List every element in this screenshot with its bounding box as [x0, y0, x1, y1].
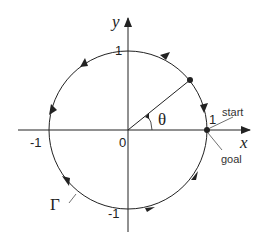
y-tick-neg: -1 — [108, 206, 120, 221]
origin-label: 0 — [119, 135, 126, 150]
point-on-circle — [187, 77, 193, 83]
y-tick-pos: 1 — [115, 43, 122, 58]
theta-label: θ — [158, 110, 166, 129]
x-axis-label: x — [239, 133, 248, 152]
x-tick-pos: 1 — [209, 112, 216, 127]
goal-label: goal — [221, 153, 242, 165]
gamma-label: Γ — [50, 195, 60, 214]
gamma-leader — [69, 194, 76, 203]
start-label: start — [222, 106, 243, 118]
unit-circle-diagram: y x 0 1 -1 -1 1 θ Γ start goal — [0, 0, 265, 243]
goal-leader — [208, 133, 222, 150]
x-tick-neg: -1 — [30, 135, 42, 150]
y-axis-label: y — [110, 12, 120, 31]
start-goal-point — [204, 127, 210, 133]
